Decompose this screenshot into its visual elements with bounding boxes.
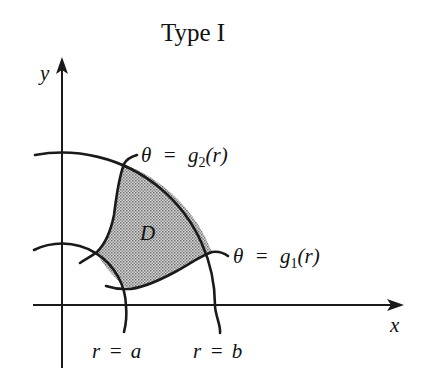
- y-axis-label: y: [38, 61, 50, 85]
- type-i-polar-region-diagram: Type I D y x θ = g2(r): [0, 0, 429, 380]
- label-r-equals-b: r = b: [193, 339, 242, 363]
- svg-text:θ = g1(r): θ = g1(r): [233, 244, 320, 271]
- label-theta-g1: θ = g1(r): [233, 244, 320, 271]
- x-axis-label: x: [389, 313, 400, 337]
- x-axis: [33, 299, 404, 311]
- diagram-title: Type I: [161, 19, 225, 46]
- svg-text:r = b: r = b: [193, 339, 242, 363]
- label-r-equals-a: r = a: [92, 339, 141, 363]
- svg-text:θ = g2(r): θ = g2(r): [141, 143, 228, 170]
- svg-text:r = a: r = a: [92, 339, 141, 363]
- label-theta-g2: θ = g2(r): [141, 143, 228, 170]
- y-axis: [56, 57, 68, 368]
- region-label-d: D: [139, 221, 155, 245]
